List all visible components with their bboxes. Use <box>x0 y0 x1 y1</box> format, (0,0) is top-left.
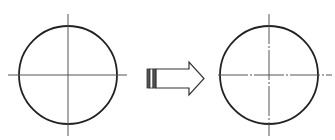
left-figure <box>8 14 127 136</box>
diagram-canvas <box>0 0 335 140</box>
transform-arrow-icon <box>147 62 204 95</box>
right-figure <box>218 14 332 136</box>
